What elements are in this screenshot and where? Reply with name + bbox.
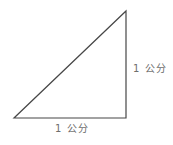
horizontal-leg-label: 1 公分 [55,123,89,135]
right-triangle-outline [14,11,126,118]
geometry-diagram: 1 公分 1 公分 [0,0,173,145]
vertical-leg-label: 1 公分 [133,63,167,75]
